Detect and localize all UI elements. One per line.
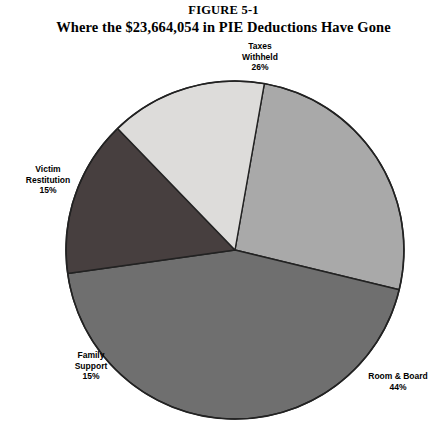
slice-label-room-board: Room & Board 44% xyxy=(352,371,444,392)
slice-label-taxes-withheld: Taxes Withheld 26% xyxy=(205,41,315,73)
slice-label-line2: Withheld xyxy=(242,52,278,62)
slice-value: 26% xyxy=(205,62,315,73)
slice-label-family-support: Family Support 15% xyxy=(53,350,129,382)
slice-label-victim-restitution: Victim Restitution 15% xyxy=(6,164,90,196)
slice-value: 44% xyxy=(352,382,444,393)
slice-value: 15% xyxy=(6,185,90,196)
slice-label-line1: Room & Board xyxy=(368,371,428,381)
slice-label-line1: Taxes xyxy=(248,41,271,51)
slice-label-line2: Support xyxy=(75,361,108,371)
slice-label-line1: Family xyxy=(78,350,105,360)
figure-container: FIGURE 5-1 Where the $23,664,054 in PIE … xyxy=(0,0,447,439)
slice-label-line2: Restitution xyxy=(26,175,70,185)
slice-label-line1: Victim xyxy=(35,164,60,174)
slice-value: 15% xyxy=(53,371,129,382)
